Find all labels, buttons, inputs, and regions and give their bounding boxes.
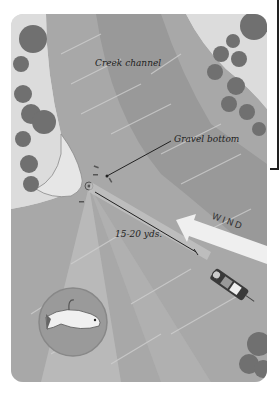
creek-channel-label: Creek channel (95, 58, 161, 68)
map-illustration (11, 14, 267, 382)
distance-label: 15-20 yds. (115, 229, 162, 239)
gravel-bottom-label: Gravel bottom (174, 134, 239, 144)
frame-edge (277, 0, 279, 170)
frame-edge-foot (270, 168, 279, 170)
fishing-map: Creek channel Gravel bottom 15-20 yds. W… (11, 14, 267, 382)
